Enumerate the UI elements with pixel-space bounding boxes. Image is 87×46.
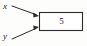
arrow-y-head [33, 26, 39, 31]
input-label-x: x [3, 2, 7, 11]
block-label: 5 [40, 13, 83, 29]
arrow-x-line [12, 6, 36, 15]
input-label-y: y [3, 32, 7, 41]
block-diagram-figure: x y 5 [0, 0, 87, 46]
arrow-y [12, 26, 39, 39]
arrow-y-line [12, 28, 36, 39]
arrow-x-head [33, 13, 39, 18]
arrow-x [12, 6, 39, 17]
